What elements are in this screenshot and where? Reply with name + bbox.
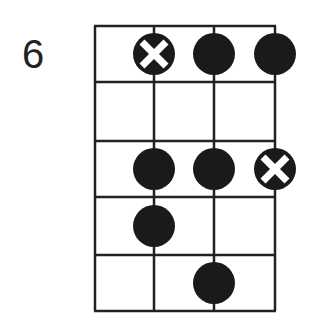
note-dot <box>133 148 175 190</box>
note-dot <box>254 33 296 75</box>
note-dot <box>193 262 235 304</box>
note-dot <box>193 33 235 75</box>
note-dot <box>193 148 235 190</box>
note-dot <box>133 205 175 247</box>
fretboard-grid <box>0 0 316 314</box>
